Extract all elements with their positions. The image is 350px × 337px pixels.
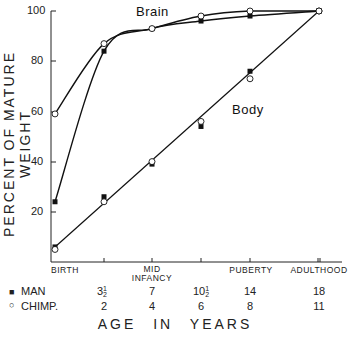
data-point <box>198 118 204 124</box>
x-axis-title: AGE IN YEARS <box>0 316 350 332</box>
open-circle-icon: ○ <box>9 300 14 310</box>
data-point <box>247 76 253 82</box>
legend-man: MAN <box>21 285 45 297</box>
x-ticks <box>104 258 320 262</box>
man-age-3: 1012 <box>186 285 216 298</box>
plot-series <box>52 8 322 252</box>
data-point <box>102 49 107 54</box>
y-tick-100: 100 <box>27 4 45 16</box>
chimp-age-5: 11 <box>304 300 334 312</box>
man-age-5: 18 <box>304 285 334 297</box>
stage-birth: BIRTH <box>30 266 100 275</box>
body-curve-label: Body <box>232 102 264 117</box>
y-axis-title: PERCENT OF MATURE WEIGHT <box>1 34 33 254</box>
data-point <box>52 111 58 117</box>
series-line <box>55 11 319 114</box>
data-point <box>248 69 253 74</box>
data-point <box>149 26 155 32</box>
data-point <box>247 8 253 14</box>
data-point <box>52 246 58 252</box>
data-point <box>101 199 107 205</box>
stage-adulthood: ADULTHOOD <box>284 266 350 275</box>
brain-curve-label: Brain <box>136 4 169 19</box>
chart-plot <box>0 0 350 337</box>
data-point <box>101 41 107 47</box>
filled-square-icon: ■ <box>9 287 14 297</box>
data-point <box>149 159 155 165</box>
data-point <box>198 13 204 19</box>
man-age-1: 312 <box>87 285 117 298</box>
legend-chimp: CHIMP. <box>21 300 58 312</box>
body-trend-line <box>55 11 319 247</box>
data-point <box>316 8 322 14</box>
chimp-age-3: 6 <box>186 300 216 312</box>
series-line <box>55 11 319 202</box>
man-age-2: 7 <box>137 285 167 297</box>
chimp-age-2: 4 <box>137 300 167 312</box>
stage-infancy: INFANCY <box>117 274 187 283</box>
data-point <box>53 199 58 204</box>
chimp-age-4: 8 <box>235 300 265 312</box>
stage-puberty: PUBERTY <box>216 266 286 275</box>
man-age-4: 14 <box>235 285 265 297</box>
chimp-age-1: 2 <box>89 300 119 312</box>
